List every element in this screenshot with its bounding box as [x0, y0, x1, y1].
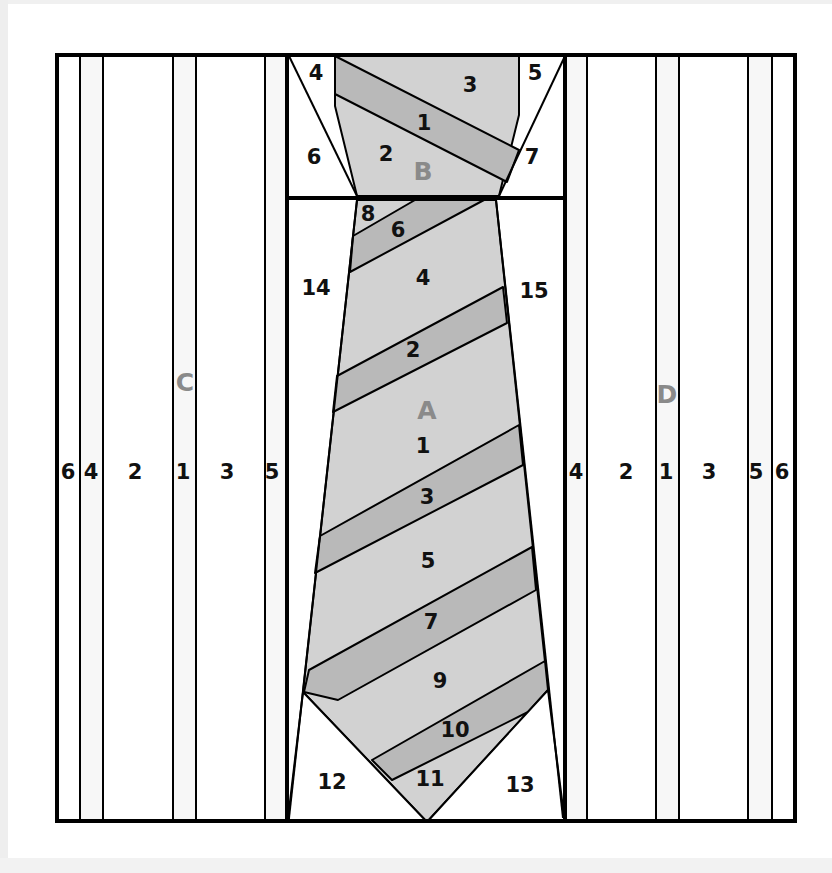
piece-number: 1: [417, 111, 432, 135]
strip-c-5: [265, 54, 287, 822]
section-label-b: B: [413, 157, 432, 186]
piece-number: 10: [440, 718, 469, 742]
section-label-a: A: [417, 396, 437, 425]
piece-number: 15: [519, 279, 548, 303]
section-label-d: D: [657, 380, 678, 409]
piece-number: 3: [420, 485, 435, 509]
piece-number: 2: [406, 338, 421, 362]
piece-number: 5: [421, 549, 436, 573]
section-d-strips: [565, 54, 772, 822]
strip-d-5: [748, 54, 772, 822]
piece-number: 7: [525, 145, 540, 169]
section-c-numbers: 6 4 2 1 3 5: [61, 460, 280, 484]
section-c-strips: [80, 54, 287, 822]
piece-number: 4: [416, 266, 431, 290]
piece-number: 6: [307, 145, 322, 169]
piece-number: 5: [265, 460, 280, 484]
piece-number: 1: [659, 460, 674, 484]
piece-number: 7: [424, 610, 439, 634]
piece-number: 2: [128, 460, 143, 484]
necktie-block-diagram: A B C D 6 4 2 1 3 5 4 2 1 3 5 6 1 2 3 4 …: [0, 0, 832, 873]
strip-c-1: [173, 54, 196, 822]
piece-number: 3: [463, 73, 478, 97]
piece-number: 12: [317, 770, 346, 794]
strip-d-1: [656, 54, 679, 822]
piece-number: 3: [702, 460, 717, 484]
piece-number: 4: [569, 460, 584, 484]
piece-number: 9: [433, 669, 448, 693]
piece-number: 6: [61, 460, 76, 484]
strip-d-4: [565, 54, 587, 822]
piece-number: 3: [220, 460, 235, 484]
piece-number: 6: [391, 218, 406, 242]
piece-number: 14: [301, 276, 330, 300]
piece-number: 1: [416, 434, 431, 458]
strip-c-4: [80, 54, 103, 822]
piece-number: 2: [379, 142, 394, 166]
piece-number: 13: [505, 773, 534, 797]
piece-number: 4: [84, 460, 99, 484]
section-label-c: C: [176, 368, 194, 397]
piece-number: 4: [309, 61, 324, 85]
piece-number: 6: [775, 460, 790, 484]
piece-number: 8: [361, 202, 376, 226]
piece-number: 5: [528, 61, 543, 85]
piece-number: 1: [176, 460, 191, 484]
piece-number: 2: [619, 460, 634, 484]
piece-number: 11: [415, 767, 444, 791]
piece-number: 5: [749, 460, 764, 484]
